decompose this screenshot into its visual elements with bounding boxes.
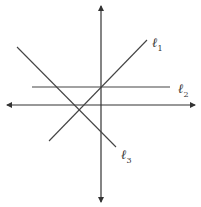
label-l2-sub: 2: [183, 90, 188, 99]
diagram-canvas: ℓ1 ℓ2 ℓ3: [0, 0, 201, 207]
label-l2: ℓ2: [178, 82, 189, 99]
line-l1: [49, 40, 147, 141]
label-l3: ℓ3: [121, 148, 132, 165]
label-l1-sub: 1: [157, 44, 162, 53]
diagram-svg: [0, 0, 201, 207]
label-l1: ℓ1: [152, 36, 163, 53]
label-l3-sub: 3: [126, 156, 131, 165]
